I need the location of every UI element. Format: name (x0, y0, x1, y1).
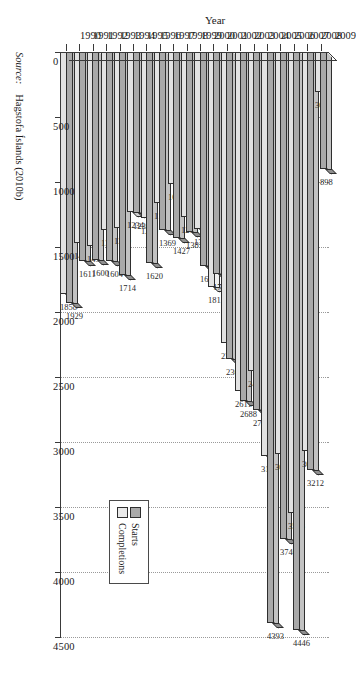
bar-starts-2004 (253, 52, 260, 410)
bar-side (325, 169, 337, 174)
bar-group-2000: 13581643 (195, 52, 208, 637)
value-axis-tick (55, 442, 61, 443)
value-axis-tick-label: 1000 (53, 186, 75, 197)
bar-value-label: 4446 (293, 638, 310, 648)
category-axis-tick (187, 44, 188, 51)
category-axis-tick (120, 44, 121, 51)
category-axis-line-back (69, 60, 337, 61)
value-axis-tick (55, 117, 61, 118)
bar-group-1998: 10161427 (168, 52, 181, 637)
bar-face (66, 52, 73, 303)
bar-group-2006: 30943746 (275, 52, 288, 637)
value-axis-tick-label: 3500 (53, 511, 75, 522)
bar-group-1999: 12661381 (182, 52, 195, 637)
bar-face (280, 52, 287, 539)
value-axis-tick (55, 377, 61, 378)
bar-group-2007: 35484446 (289, 52, 302, 637)
value-axis-tick (55, 572, 61, 573)
bar-starts-2001 (213, 52, 220, 274)
category-axis-tick (294, 44, 295, 51)
value-axis-line (60, 52, 61, 637)
chart-legend: Starts Completions (109, 500, 149, 584)
bar-starts-2000 (200, 52, 207, 266)
value-axis-tick (55, 52, 61, 53)
bar-group-1990: 18581929 (61, 52, 74, 637)
category-axis-tick (227, 44, 228, 51)
bar-starts-2009 (320, 52, 327, 169)
bar-face (200, 52, 207, 266)
bar-starts-1997 (159, 52, 166, 230)
category-axis-tick (173, 44, 174, 51)
bar-starts-1999 (186, 52, 193, 232)
value-axis-tick-label: 2500 (53, 381, 75, 392)
value-axis-tick-label: 0 (53, 56, 58, 67)
category-axis-tick (106, 44, 107, 51)
bar-starts-2007 (293, 52, 300, 630)
category-axis-tick (254, 44, 255, 51)
category-axis-tick (321, 44, 322, 51)
bar-group-2002: 22402360 (222, 52, 235, 637)
bar-starts-2005 (267, 52, 274, 623)
value-axis-tick-label: 4500 (53, 641, 75, 652)
value-axis-tick (55, 507, 61, 508)
bar-starts-2008 (307, 52, 314, 470)
category-axis-tick (146, 44, 147, 51)
category-axis-label-2009: 2009 (335, 30, 356, 41)
gridline (61, 637, 329, 638)
category-axis-tick (133, 44, 134, 51)
bar-top (327, 52, 332, 174)
bar-starts-1991 (79, 52, 86, 261)
source-text: Hagstofa Íslands (2010b) (14, 94, 25, 200)
value-axis-tick-label: 2000 (53, 316, 75, 327)
category-axis-line-front (61, 52, 329, 53)
bar-starts-1992 (92, 52, 99, 260)
category-axis-tick (66, 44, 67, 51)
category-axis-tick (213, 44, 214, 51)
category-axis-tick (79, 44, 80, 51)
bar-face (307, 52, 314, 470)
plot-area: 1858192914701611149516001372160413501714… (61, 52, 329, 637)
bar-starts-1996 (146, 52, 153, 263)
legend-label-starts: Starts (130, 523, 141, 546)
category-axis-tick (267, 44, 268, 51)
bar-starts-1990 (66, 52, 73, 303)
value-axis-tick-label: 1500 (53, 251, 75, 262)
bar-face (106, 52, 113, 261)
bar-group-2004: 24552751 (249, 52, 262, 637)
category-axis-tick (160, 44, 161, 51)
bar-starts-1994 (119, 52, 126, 275)
bar-value-label: 898 (320, 177, 333, 187)
bar-face (173, 52, 180, 238)
bar-face (213, 52, 220, 274)
bar-face (133, 52, 140, 213)
legend-item-completions: Completions (117, 507, 128, 577)
bar-group-1991: 14701611 (74, 52, 87, 637)
bar-starts-1993 (106, 52, 113, 261)
bar-group-2001: 18111711 (208, 52, 221, 637)
bar-group-2003: 26112688 (235, 52, 248, 637)
category-axis-tick (200, 44, 201, 51)
axis-depth-connector (328, 52, 337, 61)
bar-group-2008: 30683212 (302, 52, 315, 637)
bar-starts-1995 (133, 52, 140, 213)
category-axis-tick (93, 44, 94, 51)
value-axis-tick-label: 3000 (53, 446, 75, 457)
bar-starts-2006 (280, 52, 287, 539)
value-axis-tick (55, 182, 61, 183)
value-axis-tick-label: 4000 (53, 576, 75, 587)
legend-item-starts: Starts (130, 507, 141, 577)
bar-face (267, 52, 274, 623)
legend-label-completions: Completions (117, 523, 128, 574)
bar-face (79, 52, 86, 261)
bar-face (146, 52, 153, 263)
value-axis-tick-label: 500 (53, 121, 69, 132)
starts-swatch-icon (130, 507, 141, 518)
value-axis-tick (55, 637, 61, 638)
bar-starts-2002 (226, 52, 233, 359)
bar-group-1992: 14951600 (88, 52, 101, 637)
category-axis-tick (240, 44, 241, 51)
value-axis-tick (55, 247, 61, 248)
bar-group-1997: 11631369 (155, 52, 168, 637)
category-axis-tick (280, 44, 281, 51)
